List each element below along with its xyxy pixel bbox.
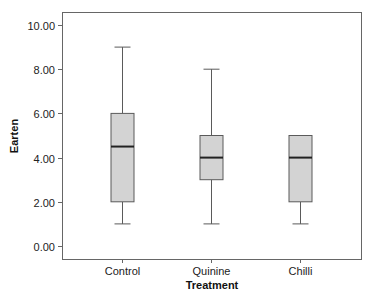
y-tick-label: 10.00: [27, 20, 55, 32]
box-chilli: [289, 136, 312, 224]
y-tick-label: 6.00: [34, 108, 55, 120]
x-tick-label: Quinine: [193, 265, 231, 277]
y-axis: 0.002.004.006.008.0010.00: [27, 20, 62, 253]
y-tick-label: 2.00: [34, 197, 55, 209]
y-tick-label: 8.00: [34, 64, 55, 76]
y-tick-label: 0.00: [34, 241, 55, 253]
iqr-box: [111, 113, 134, 201]
x-axis: ControlQuinineChilli: [105, 259, 313, 277]
box-control: [111, 47, 134, 224]
x-tick-label: Control: [105, 265, 140, 277]
boxes: [111, 47, 312, 224]
box-plot-chart: 0.002.004.006.008.0010.00 ControlQuinine…: [0, 0, 372, 305]
box-quinine: [200, 69, 223, 224]
x-tick-label: Chilli: [289, 265, 313, 277]
y-axis-title: Earten: [8, 119, 20, 154]
iqr-box: [289, 136, 312, 202]
x-axis-title: Treatment: [186, 279, 239, 291]
y-tick-label: 4.00: [34, 153, 55, 165]
